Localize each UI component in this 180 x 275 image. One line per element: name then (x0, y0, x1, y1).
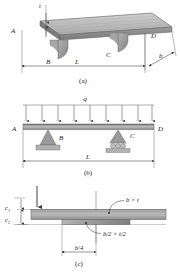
label-cover-section: b/2 × t/2 (103, 230, 127, 237)
label-b4: b/4 (75, 244, 84, 251)
leader-dot-cover (85, 222, 87, 224)
label-b-panel-a: B (46, 58, 51, 66)
label-c2: c2 (5, 216, 10, 225)
panel-b: q A D B C L (b) (11, 95, 163, 177)
engineering-figure: t A B C D L b (a) (0, 0, 180, 275)
label-c1: c1 (5, 204, 10, 213)
bracket-c (118, 33, 128, 52)
panel-a: t A B C D L b (a) (10, 2, 176, 85)
label-span-L-a: L (74, 58, 79, 66)
panel-c: c1 c2 b × t b/2 × t/2 b/4 (c) (5, 186, 166, 268)
label-c-panel-b: C (130, 132, 135, 140)
label-span-L-b: L (85, 153, 90, 161)
bracket-b-gusset (50, 40, 58, 52)
label-a-panel-a: A (10, 27, 16, 35)
caption-panel-b: (b) (84, 169, 93, 177)
cover-plate-cross-section (62, 220, 130, 225)
label-a-panel-b: A (11, 125, 17, 133)
label-width-b-a: b (159, 52, 163, 60)
label-plate-section: b × t (126, 196, 139, 203)
caption-panel-a: (a) (79, 77, 87, 85)
bracket-c-gusset (110, 33, 118, 45)
support-roller-c-rollers (111, 144, 126, 149)
label-b-panel-b: B (59, 134, 64, 142)
beam-bar (23, 124, 154, 130)
support-pin-b (40, 130, 56, 145)
ext-line-b-2 (172, 32, 176, 56)
caption-panel-c: (c) (75, 260, 83, 268)
support-pin-b-base (36, 145, 60, 150)
distributed-load-arrows (26, 105, 152, 121)
label-thickness-t: t (39, 2, 41, 9)
leader-dot-plate (108, 212, 110, 214)
support-roller-c-base (106, 149, 130, 153)
bracket-b (58, 40, 68, 59)
support-roller-c (110, 130, 126, 143)
label-c-panel-a: C (106, 51, 111, 59)
label-d-panel-a: D (150, 32, 156, 40)
label-d-panel-b: D (157, 125, 163, 133)
label-load-q: q (83, 95, 87, 103)
